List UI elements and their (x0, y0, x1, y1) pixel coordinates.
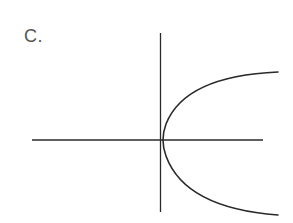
parabola-graph (0, 0, 293, 223)
parabola-curve (163, 72, 278, 215)
